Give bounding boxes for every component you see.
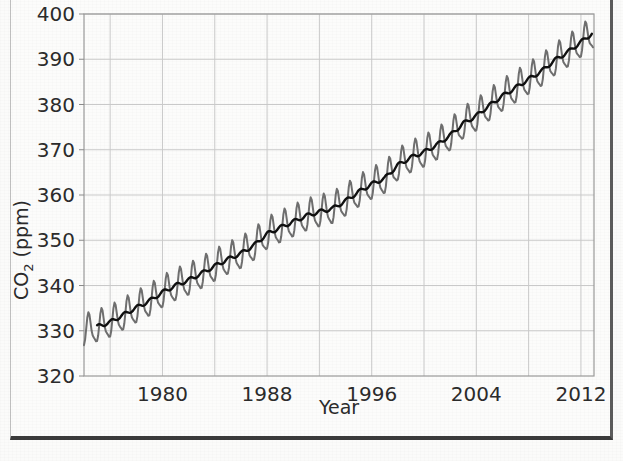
keeling-curve-figure: 320330340350360370380390400 198019881996… (0, 0, 623, 461)
x-axis-title: Year (318, 396, 359, 418)
y-tick-label: 400 (37, 2, 75, 26)
x-tick-label: 2004 (451, 382, 502, 406)
series-layer (84, 22, 593, 346)
svg-text:CO2 (ppm): CO2 (ppm) (10, 200, 36, 300)
co2-line-chart: 320330340350360370380390400 198019881996… (0, 0, 623, 461)
y-axis-title-base: CO (10, 272, 32, 300)
y-axis-title-subscript: 2 (21, 263, 36, 271)
y-tick-label: 330 (37, 319, 75, 343)
y-tick-label: 320 (37, 364, 75, 388)
y-tick-label: 340 (37, 274, 75, 298)
y-axis-tick-labels: 320330340350360370380390400 (37, 2, 84, 388)
y-tick-label: 390 (37, 47, 75, 71)
series-monthly-co2 (84, 22, 593, 346)
y-tick-label: 380 (37, 93, 75, 117)
y-axis-title: CO2 (ppm) (10, 200, 36, 300)
y-tick-label: 360 (37, 183, 75, 207)
x-tick-label: 1988 (242, 382, 293, 406)
x-tick-label: 2012 (555, 382, 606, 406)
y-axis-title-unit: (ppm) (10, 200, 32, 264)
y-tick-label: 370 (37, 138, 75, 162)
x-tick-label: 1980 (137, 382, 188, 406)
x-axis-tick-labels: 19801988199620042012 (137, 382, 606, 406)
y-tick-label: 350 (37, 228, 75, 252)
